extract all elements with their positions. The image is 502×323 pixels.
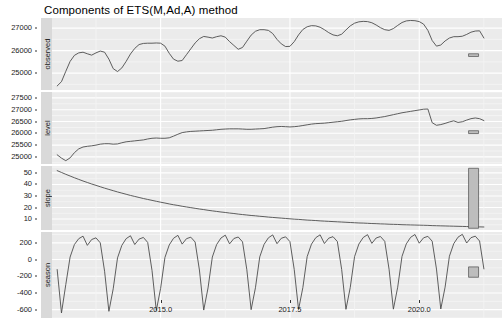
y-tick-mark [35, 28, 37, 29]
y-tick-mark [35, 145, 37, 146]
scale-bar-observed [469, 54, 479, 57]
y-tick-mark [35, 207, 37, 208]
y-tick-mark [35, 309, 37, 310]
y-tick-mark [35, 276, 37, 277]
y-tick-label: 26000 [11, 47, 32, 55]
y-tick-label: -200 [17, 273, 32, 281]
plot-panel-slope [52, 166, 502, 230]
y-tick-mark [35, 242, 37, 243]
facet-strip-slope: slope [41, 166, 52, 230]
y-axis-observed: 250002600027000 [0, 18, 38, 90]
y-tick-mark [35, 133, 37, 134]
y-tick-mark [35, 292, 37, 293]
y-tick-label: 200 [19, 239, 32, 247]
page-title: Components of ETS(M,Ad,A) method [44, 4, 238, 16]
y-tick-label: 20 [24, 204, 32, 212]
y-tick-label: 0 [28, 256, 32, 264]
y-tick-label: 30 [24, 192, 32, 200]
series-line-observed [57, 20, 484, 85]
y-tick-label: 25000 [11, 153, 32, 161]
series-line-level [57, 109, 484, 161]
y-tick-mark [35, 219, 37, 220]
x-tick-mark [419, 300, 420, 303]
facet-panel-stack: 250002600027000observed25000255002600026… [0, 18, 502, 300]
x-tick-label: 2015.0 [149, 305, 172, 314]
y-tick-label: 26500 [11, 118, 32, 126]
y-axis-level: 250002550026000265002700027500 [0, 92, 38, 164]
y-tick-mark [35, 121, 37, 122]
x-tick-mark [290, 300, 291, 303]
x-tick-label: 2020.0 [408, 305, 431, 314]
y-tick-mark [35, 156, 37, 157]
y-tick-label: 25500 [11, 141, 32, 149]
facet-strip-observed: observed [41, 18, 52, 90]
y-tick-mark [35, 50, 37, 51]
facet-slope: 1020304050slope [0, 166, 502, 230]
scale-bar-season [469, 267, 479, 277]
scale-bar-slope [469, 168, 479, 228]
y-tick-label: -600 [17, 306, 32, 314]
y-tick-label: 27000 [11, 24, 32, 32]
y-tick-mark [35, 184, 37, 185]
facet-observed: 250002600027000observed [0, 18, 502, 90]
facet-strip-label: level [42, 120, 51, 135]
y-tick-label: 25000 [11, 69, 32, 77]
facet-strip-label: observed [42, 39, 51, 70]
x-tick-label: 2017.5 [278, 305, 301, 314]
y-tick-mark [35, 172, 37, 173]
y-tick-label: 10 [24, 215, 32, 223]
x-tick-mark [161, 300, 162, 303]
y-tick-label: 40 [24, 181, 32, 189]
scale-bar-level [469, 131, 479, 134]
facet-strip-season: season [41, 232, 52, 318]
y-tick-label: 27500 [11, 94, 32, 102]
x-axis: 2015.02017.52020.0 [52, 300, 502, 323]
y-axis-season: -600-400-2000200 [0, 232, 38, 318]
facet-strip-label: season [42, 263, 51, 287]
y-tick-mark [35, 195, 37, 196]
y-tick-mark [35, 259, 37, 260]
y-axis-slope: 1020304050 [0, 166, 38, 230]
y-tick-mark [35, 73, 37, 74]
ets-components-plot: Components of ETS(M,Ad,A) method 2500026… [0, 0, 502, 323]
y-tick-label: 26000 [11, 130, 32, 138]
y-tick-mark [35, 109, 37, 110]
y-tick-mark [35, 97, 37, 98]
y-tick-label: 27000 [11, 106, 32, 114]
y-tick-label: -400 [17, 289, 32, 297]
plot-panel-level [52, 92, 502, 164]
y-tick-label: 50 [24, 169, 32, 177]
facet-level: 250002550026000265002700027500level [0, 92, 502, 164]
facet-strip-level: level [41, 92, 52, 164]
plot-panel-observed [52, 18, 502, 90]
facet-strip-label: slope [42, 189, 51, 207]
